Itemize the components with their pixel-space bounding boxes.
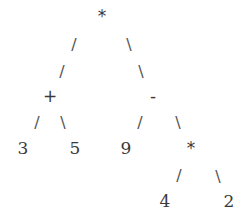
expression-tree-diagram: * / / \ \ + - / \ / \ 3 5 9 * / \ 4 2 xyxy=(0,0,250,216)
node-inner-multiply: * xyxy=(187,140,196,157)
edge-root-left-2: / xyxy=(59,64,64,80)
edge-inner-right: \ xyxy=(215,169,220,185)
leaf-3: 3 xyxy=(18,140,29,157)
node-root-multiply: * xyxy=(98,8,107,25)
leaf-4: 4 xyxy=(160,193,171,210)
edge-minus-left: / xyxy=(137,115,142,131)
edge-plus-right: \ xyxy=(60,115,65,131)
edge-plus-left: / xyxy=(34,115,39,131)
edge-root-right-1: \ xyxy=(126,37,131,53)
leaf-5: 5 xyxy=(70,140,81,157)
edge-root-right-2: \ xyxy=(138,64,143,80)
edge-inner-left: / xyxy=(176,168,181,184)
node-minus: - xyxy=(150,88,156,105)
leaf-9: 9 xyxy=(121,140,132,157)
edge-root-left-1: / xyxy=(71,37,76,53)
node-plus: + xyxy=(43,88,57,105)
edge-minus-right: \ xyxy=(175,115,180,131)
leaf-2: 2 xyxy=(224,193,235,210)
